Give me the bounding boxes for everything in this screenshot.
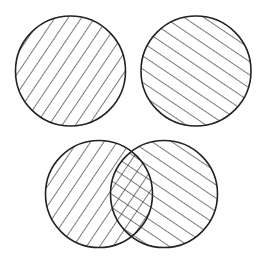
set-b-circle [141, 16, 251, 126]
venn-diagram-canvas [0, 0, 263, 258]
overlapping-sets [46, 141, 218, 248]
venn-diagram-figure [0, 0, 263, 258]
set-a-circle [16, 16, 126, 126]
